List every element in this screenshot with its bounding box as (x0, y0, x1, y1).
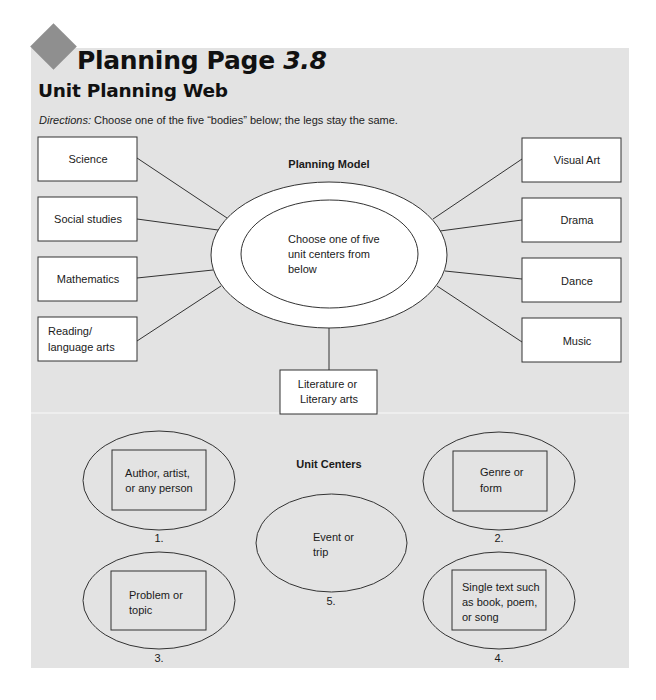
leg-label-drama: Drama (560, 214, 594, 226)
connector-visual-art (433, 159, 522, 219)
leg-box-science: Science (38, 137, 137, 181)
unit-center-1-line-1: Author, artist, (125, 467, 190, 479)
unit-center-2-line-2: form (480, 482, 502, 494)
leg-label-literature-line-1: Literature or (298, 378, 358, 390)
connector-music (437, 286, 522, 342)
leg-label-dance: Dance (561, 275, 593, 287)
planning-model-heading: Planning Model (288, 158, 369, 170)
leg-box-social-studies: Social studies (38, 197, 137, 241)
unit-center-3-line-1: Problem or (129, 589, 183, 601)
leg-label-reading-line-1: Reading/ (48, 325, 93, 337)
right-legs: Visual Art Drama Dance Music (522, 138, 621, 362)
unit-center-5-label: Event or trip (313, 531, 357, 558)
unit-center-5: Event or trip 5. (256, 494, 407, 607)
connector-mathematics (137, 270, 213, 278)
connector-science (137, 158, 227, 218)
unit-center-2-line-1: Genre or (480, 466, 524, 478)
unit-center-4-number: 4. (494, 652, 503, 664)
center-line-1: Choose one of five (288, 233, 380, 245)
unit-center-3-label: Problem or topic (129, 589, 186, 616)
unit-center-3-number: 3. (154, 652, 163, 664)
unit-centers-heading: Unit Centers (296, 458, 361, 470)
unit-center-2-number: 2. (494, 532, 503, 544)
leg-label-visual-art: Visual Art (554, 154, 600, 166)
unit-center-5-number: 5. (326, 595, 335, 607)
unit-center-1-number: 1. (154, 532, 163, 544)
leg-label-literature-line-2: Literary arts (300, 393, 359, 405)
unit-center-3-line-2: topic (129, 604, 153, 616)
leg-box-literature: Literature or Literary arts (280, 370, 377, 414)
unit-center-5-line-2: trip (313, 546, 328, 558)
unit-center-1-label: Author, artist, or any person (125, 467, 193, 494)
unit-center-4-label: Single text such as book, poem, or song (462, 581, 543, 623)
planning-web-diagram: Planning Model Choose one of five unit c… (0, 0, 656, 700)
unit-center-1: Author, artist, or any person 1. (83, 431, 235, 544)
leg-label-mathematics: Mathematics (57, 273, 120, 285)
unit-center-4-line-1: Single text such (462, 581, 540, 593)
leg-label-reading-line-2: language arts (48, 341, 115, 353)
leg-box-drama: Drama (522, 198, 621, 242)
unit-center-4: Single text such as book, poem, or song … (423, 552, 575, 664)
center-line-3: below (288, 263, 317, 275)
leg-box-reading-language-arts: Reading/ language arts (38, 317, 137, 361)
unit-center-5-line-1: Event or (313, 531, 354, 543)
leg-box-dance: Dance (522, 258, 621, 302)
connector-social-studies (137, 219, 218, 230)
center-line-2: unit centers from (288, 248, 370, 260)
leg-label-social-studies: Social studies (54, 213, 122, 225)
unit-center-2: Genre or form 2. (423, 432, 575, 544)
unit-center-4-line-2: as book, poem, (462, 596, 537, 608)
leg-label-science: Science (68, 153, 107, 165)
connector-reading (137, 286, 221, 341)
unit-center-2-label: Genre or form (480, 466, 526, 494)
left-legs: Science Social studies Mathematics Readi… (38, 137, 137, 361)
leg-box-visual-art: Visual Art (522, 138, 621, 182)
unit-center-1-line-2: or any person (125, 482, 192, 494)
leg-box-mathematics: Mathematics (38, 257, 137, 301)
leg-box-music: Music (522, 318, 621, 362)
connector-drama (440, 220, 522, 231)
connector-dance (445, 271, 522, 279)
unit-center-4-line-3: or song (462, 611, 499, 623)
leg-label-music: Music (563, 335, 592, 347)
unit-center-3: Problem or topic 3. (83, 552, 235, 664)
